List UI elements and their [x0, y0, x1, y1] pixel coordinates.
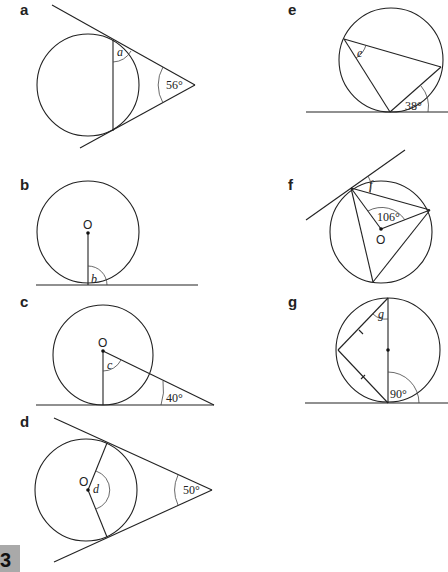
angle-label-f: f — [369, 178, 374, 192]
angle-label-e: e — [357, 46, 363, 60]
diagram-f: f O 106° f — [288, 150, 432, 283]
diagram-label-c: c — [20, 293, 28, 310]
radius-d-lower — [88, 490, 107, 537]
angle-value-90: 90° — [390, 387, 407, 401]
equal-tick-upper — [359, 330, 363, 334]
angle-arc-50 — [175, 475, 178, 505]
center-label-b: O — [83, 218, 92, 232]
diagram-a: a a 56° — [20, 1, 195, 148]
angle-value-56: 56° — [166, 78, 183, 92]
diagram-c: c O c 40° — [20, 293, 214, 405]
circle-a — [37, 34, 139, 136]
diagram-g: g g 90° — [288, 293, 448, 403]
page-number: 3 — [0, 548, 11, 572]
circle-d — [35, 439, 137, 541]
center-label-d: O — [79, 475, 88, 489]
angle-label-a: a — [117, 45, 123, 59]
tangent-lower-d — [54, 490, 212, 562]
angle-arc-56 — [158, 67, 163, 103]
angle-label-g: g — [378, 307, 384, 321]
diagram-label-b: b — [20, 176, 29, 193]
angle-label-b: b — [91, 272, 97, 286]
diagram-label-f: f — [288, 176, 294, 193]
diagram-label-d: d — [20, 413, 29, 430]
tangent-upper-d — [54, 418, 212, 490]
diagram-d: d O d 50° — [20, 413, 212, 562]
chord-f-2 — [351, 188, 373, 282]
diagram-e: e e 38° — [288, 1, 448, 113]
diagram-b: b O b — [20, 176, 198, 286]
center-dot-f — [379, 227, 383, 231]
circle-e — [339, 8, 443, 112]
center-dot-g — [386, 348, 390, 352]
angle-value-38: 38° — [405, 99, 422, 113]
center-label-c: O — [98, 336, 107, 350]
chord-g-upper — [338, 298, 388, 350]
angle-label-c: c — [107, 358, 113, 372]
diagram-label-e: e — [288, 1, 296, 18]
secant-c — [103, 351, 214, 405]
center-label-f: O — [376, 233, 385, 247]
tangent-lower-a — [80, 85, 195, 148]
angle-value-50: 50° — [183, 483, 200, 497]
circle-theorems-figure: a a 56° e e 38° b O b f — [0, 0, 448, 572]
chord-f-1 — [351, 188, 430, 210]
angle-value-106: 106° — [377, 210, 400, 224]
angle-label-d: d — [93, 482, 100, 496]
diagram-label-a: a — [20, 1, 29, 18]
angle-value-40: 40° — [166, 391, 183, 405]
tangent-upper-a — [52, 5, 195, 85]
angle-arc-40 — [161, 381, 164, 405]
diagram-label-g: g — [288, 293, 297, 310]
